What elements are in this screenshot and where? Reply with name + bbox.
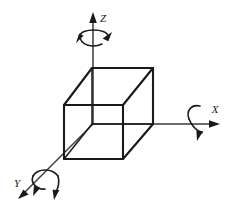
axis-label-y: Y (14, 177, 22, 189)
rotation-arrow-x-top-sweep (188, 106, 200, 119)
y-axis-group (18, 124, 93, 199)
axis-label-x: X (211, 103, 220, 115)
x-axis-arrowhead (209, 120, 220, 127)
cube-wireframe (64, 68, 153, 159)
rotation-arrow-x-head (196, 130, 203, 141)
cube-edge-top-left-diagonal (64, 68, 92, 105)
cube-edge-back-bottom-left-diagonal (64, 124, 92, 159)
rotation-arrow-y-right-sweep (56, 176, 59, 192)
rotation-arrow-z-back-sweep (80, 30, 108, 36)
rotation-arrow-y (32, 170, 59, 200)
cube-edge-top-right-diagonal (123, 68, 153, 105)
cube-rotation-axes-diagram: Z X Y (0, 0, 230, 209)
rotation-arrow-y-head-right (53, 190, 60, 200)
z-axis-arrowhead (89, 12, 97, 23)
axis-label-z: Z (100, 12, 107, 24)
rotation-arrow-z (76, 30, 112, 46)
figure-canvas: Z X Y (0, 0, 230, 209)
rotation-arrow-z-front-sweep (80, 36, 102, 46)
cube-edge-bottom-right-diagonal (123, 124, 153, 159)
rotation-arrow-y-head-left (33, 186, 41, 196)
